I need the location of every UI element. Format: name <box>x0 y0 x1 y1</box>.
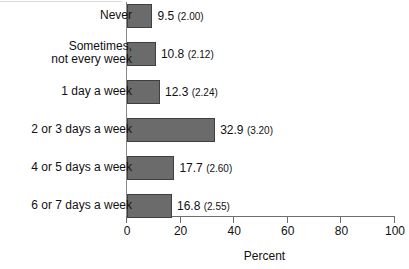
x-tick-label-20: 20 <box>161 224 201 238</box>
standard-error-value: (3.20) <box>247 125 273 136</box>
category-label: 1 day a week <box>61 85 132 98</box>
bar <box>127 156 174 180</box>
x-tick-80 <box>340 217 341 223</box>
value-number: 17.7 <box>179 161 202 175</box>
value-number: 12.3 <box>165 85 188 99</box>
x-tick-label-60: 60 <box>268 224 308 238</box>
value-number: 10.8 <box>161 47 184 61</box>
x-tick-label-0: 0 <box>107 224 147 238</box>
x-axis-title: Percent <box>0 249 409 263</box>
standard-error-value: (2.24) <box>192 87 218 98</box>
x-tick-20 <box>180 217 181 223</box>
value-label: 12.3 (2.24) <box>165 85 218 100</box>
x-axis-title-text: Percent <box>244 249 285 263</box>
x-tick-60 <box>287 217 288 223</box>
value-number: 16.8 <box>177 199 200 213</box>
bar <box>127 118 215 142</box>
scan-artifact-line <box>0 1 122 2</box>
y-axis-baseline <box>126 2 127 217</box>
x-tick-40 <box>233 217 234 223</box>
category-label: 6 or 7 days a week <box>31 199 132 212</box>
category-label: 4 or 5 days a week <box>31 161 132 174</box>
standard-error-value: (2.12) <box>188 49 214 60</box>
bar-chart: 020406080100 Never9.5 (2.00)Sometimes, n… <box>0 0 409 269</box>
category-label: 2 or 3 days a week <box>31 123 132 136</box>
value-label: 9.5 (2.00) <box>157 9 203 24</box>
value-label: 10.8 (2.12) <box>161 47 214 62</box>
standard-error-value: (2.60) <box>206 163 232 174</box>
value-label: 16.8 (2.55) <box>177 199 230 214</box>
category-label: Sometimes, not every week <box>51 40 132 66</box>
x-tick-label-80: 80 <box>321 224 361 238</box>
standard-error-value: (2.00) <box>177 11 203 22</box>
value-label: 17.7 (2.60) <box>179 161 232 176</box>
x-tick-100 <box>394 217 395 223</box>
x-tick-label-100: 100 <box>375 224 409 238</box>
value-number: 9.5 <box>157 9 174 23</box>
category-label: Never <box>100 9 132 22</box>
standard-error-value: (2.55) <box>204 201 230 212</box>
bar <box>127 194 172 218</box>
value-number: 32.9 <box>220 123 243 137</box>
value-label: 32.9 (3.20) <box>220 123 273 138</box>
x-tick-label-40: 40 <box>214 224 254 238</box>
